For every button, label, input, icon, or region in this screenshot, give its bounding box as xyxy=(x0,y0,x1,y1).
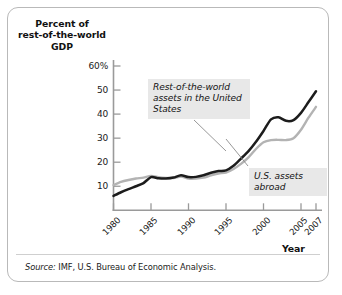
y-tick-label-40: 40 xyxy=(78,109,108,119)
source-divider xyxy=(16,254,320,255)
callout-rest-of-world: Rest-of-the-world assets in the United S… xyxy=(148,79,250,119)
y-axis-ticks xyxy=(114,66,121,186)
x-axis-ticks xyxy=(114,203,317,210)
y-tick-label-30: 30 xyxy=(78,133,108,143)
y-tick-label-10: 10 xyxy=(78,181,108,191)
chart-plot-area xyxy=(0,0,342,295)
y-tick-label-50: 50 xyxy=(78,85,108,95)
callout-us-assets-abroad: U.S. assets abroad xyxy=(249,168,327,196)
source-note: Source: IMF, U.S. Bureau of Economic Ana… xyxy=(25,262,216,272)
y-tick-label-60: 60% xyxy=(74,61,108,71)
y-tick-label-20: 20 xyxy=(78,157,108,167)
source-label: Source: xyxy=(25,262,56,272)
leader-line-rest-of-world xyxy=(194,120,226,151)
source-text: IMF, U.S. Bureau of Economic Analysis. xyxy=(56,262,216,272)
